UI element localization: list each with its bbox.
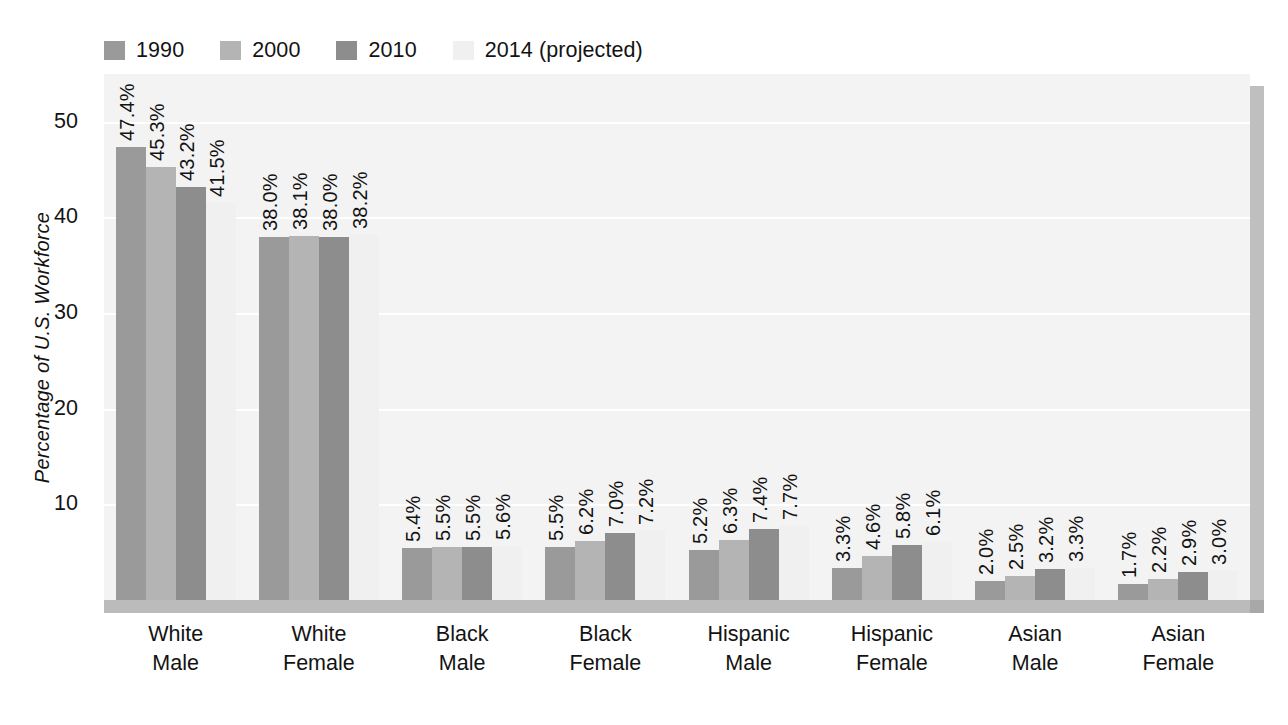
x-axis-label-line1: Asian <box>1008 622 1062 646</box>
bar[interactable]: 38.0% <box>319 237 349 600</box>
bar[interactable]: 5.2% <box>689 550 719 600</box>
bar-value-label: 38.0% <box>259 173 282 231</box>
chart-legend: 1990200020102014 (projected) <box>104 38 679 62</box>
x-axis-label-line2: Male <box>964 649 1107 678</box>
x-axis-label-line2: Female <box>820 649 963 678</box>
bar-group: 1.7%2.2%2.9%3.0% <box>1118 74 1238 600</box>
legend-item-1990[interactable]: 1990 <box>104 38 184 63</box>
x-axis-label-line2: Male <box>104 649 247 678</box>
bar-value-label: 5.4% <box>402 496 425 542</box>
bar-value-label: 38.2% <box>349 171 372 229</box>
bar[interactable]: 5.5% <box>462 547 492 600</box>
x-axis-label-line2: Female <box>1107 649 1250 678</box>
bar-value-label: 5.2% <box>689 498 712 544</box>
plot-floor-corner <box>1250 600 1264 613</box>
bar[interactable]: 5.5% <box>432 547 462 600</box>
x-axis-label-line1: White <box>148 622 203 646</box>
bar-value-label: 47.4% <box>116 83 139 141</box>
bar[interactable]: 41.5% <box>206 203 236 600</box>
legend-swatch-icon <box>104 41 125 60</box>
legend-swatch-icon <box>453 41 474 60</box>
legend-swatch-icon <box>220 41 241 60</box>
bar[interactable]: 7.4% <box>749 529 779 600</box>
legend-item-label: 1990 <box>136 38 184 63</box>
x-axis-label: AsianMale <box>964 620 1107 678</box>
bar-value-label: 2.5% <box>1005 524 1028 570</box>
bar-group: 2.0%2.5%3.2%3.3% <box>975 74 1095 600</box>
legend-item-2000[interactable]: 2000 <box>220 38 300 63</box>
bar-value-label: 3.3% <box>832 516 855 562</box>
bar[interactable]: 2.0% <box>975 581 1005 600</box>
x-axis-label-line2: Female <box>534 649 677 678</box>
legend-item-label: 2014 (projected) <box>485 38 643 63</box>
bar[interactable]: 3.0% <box>1208 571 1238 600</box>
bar[interactable]: 47.4% <box>116 147 146 600</box>
bar[interactable]: 5.4% <box>402 548 432 600</box>
bar-chart: 1990200020102014 (projected) Percentage … <box>0 0 1288 725</box>
x-axis-label-line1: Hispanic <box>851 622 933 646</box>
bar-value-label: 5.8% <box>892 492 915 538</box>
bar[interactable]: 6.1% <box>922 542 952 600</box>
bar-value-label: 5.5% <box>462 495 485 541</box>
bar[interactable]: 2.5% <box>1005 576 1035 600</box>
bar-group: 5.5%6.2%7.0%7.2% <box>545 74 665 600</box>
bar[interactable]: 7.7% <box>779 526 809 600</box>
bar[interactable]: 3.3% <box>832 568 862 600</box>
bar-value-label: 5.5% <box>545 495 568 541</box>
x-axis-label-line2: Male <box>391 649 534 678</box>
bar[interactable]: 3.3% <box>1065 568 1095 600</box>
legend-swatch-icon <box>336 41 357 60</box>
y-axis-tick-label: 50 <box>8 109 78 134</box>
bar-value-label: 7.0% <box>605 481 628 527</box>
bar[interactable]: 7.2% <box>635 531 665 600</box>
bar-value-label: 2.2% <box>1148 527 1171 573</box>
bar[interactable]: 6.2% <box>575 541 605 600</box>
bar[interactable]: 1.7% <box>1118 584 1148 600</box>
x-axis-label-line1: Hispanic <box>707 622 789 646</box>
x-axis-label-line1: Asian <box>1151 622 1205 646</box>
x-axis-label-line2: Male <box>677 649 820 678</box>
bar[interactable]: 5.8% <box>892 545 922 600</box>
bar-value-label: 7.2% <box>635 479 658 525</box>
bar-value-label: 38.0% <box>319 173 342 231</box>
plot-right-wall <box>1250 86 1264 612</box>
bar-value-label: 38.1% <box>289 172 312 230</box>
bar-group: 5.4%5.5%5.5%5.6% <box>402 74 522 600</box>
bar-value-label: 7.7% <box>779 474 802 520</box>
bar[interactable]: 6.3% <box>719 540 749 600</box>
y-axis-tick-label: 30 <box>8 300 78 325</box>
legend-item-label: 2010 <box>368 38 416 63</box>
bar[interactable]: 38.1% <box>289 236 319 600</box>
bar[interactable]: 5.5% <box>545 547 575 600</box>
bar[interactable]: 7.0% <box>605 533 635 600</box>
bar-value-label: 41.5% <box>206 139 229 197</box>
bar[interactable]: 38.2% <box>349 235 379 600</box>
bar-group: 3.3%4.6%5.8%6.1% <box>832 74 952 600</box>
bar[interactable]: 5.6% <box>492 546 522 600</box>
x-axis-label: HispanicFemale <box>820 620 963 678</box>
x-axis-label-line1: White <box>291 622 346 646</box>
bar-value-label: 4.6% <box>862 504 885 550</box>
bar[interactable]: 38.0% <box>259 237 289 600</box>
bar[interactable]: 2.9% <box>1178 572 1208 600</box>
bar[interactable]: 3.2% <box>1035 569 1065 600</box>
bar-value-label: 2.9% <box>1178 520 1201 566</box>
bar-value-label: 7.4% <box>749 477 772 523</box>
bar[interactable]: 45.3% <box>146 167 176 600</box>
bar-group: 38.0%38.1%38.0%38.2% <box>259 74 379 600</box>
bar[interactable]: 2.2% <box>1148 579 1178 600</box>
legend-item-2010[interactable]: 2010 <box>336 38 416 63</box>
bar[interactable]: 4.6% <box>862 556 892 600</box>
bar-value-label: 5.6% <box>492 494 515 540</box>
bar-value-label: 3.3% <box>1065 516 1088 562</box>
bar[interactable]: 43.2% <box>176 187 206 600</box>
y-axis-tick-label: 10 <box>8 491 78 516</box>
bar-group: 5.2%6.3%7.4%7.7% <box>689 74 809 600</box>
x-axis-category-labels: WhiteMaleWhiteFemaleBlackMaleBlackFemale… <box>104 620 1250 700</box>
legend-item-2014-projected-[interactable]: 2014 (projected) <box>453 38 643 63</box>
x-axis-label: HispanicMale <box>677 620 820 678</box>
bar-value-label: 3.0% <box>1208 519 1231 565</box>
bar-value-label: 1.7% <box>1118 531 1141 577</box>
bar-value-label: 6.3% <box>719 487 742 533</box>
x-axis-label-line1: Black <box>436 622 489 646</box>
